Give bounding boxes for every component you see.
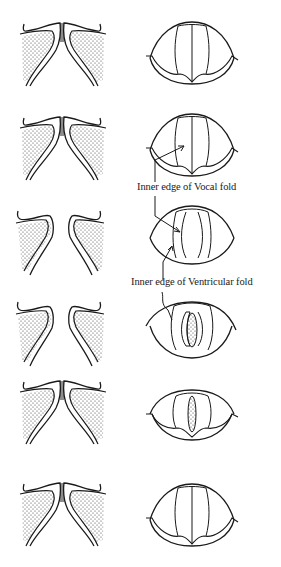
row-3-view <box>150 206 234 264</box>
vocal-fold-pointer <box>155 146 184 182</box>
row-2-view <box>146 114 238 176</box>
row-4-section <box>16 302 104 366</box>
row-1-view <box>146 22 238 84</box>
row-6-view <box>146 484 238 546</box>
row-5-view <box>146 390 238 440</box>
vocal-fold-label: Inner edge of Vocal fold <box>137 181 236 192</box>
row-2-section <box>20 116 106 180</box>
row-6-section <box>20 482 106 546</box>
row-1-section <box>20 22 106 86</box>
row-3-section <box>16 211 104 275</box>
row-5-section <box>20 380 106 444</box>
row-4-view <box>146 302 236 358</box>
ventricular-fold-label: Inner edge of Ventricular fold <box>131 276 253 287</box>
